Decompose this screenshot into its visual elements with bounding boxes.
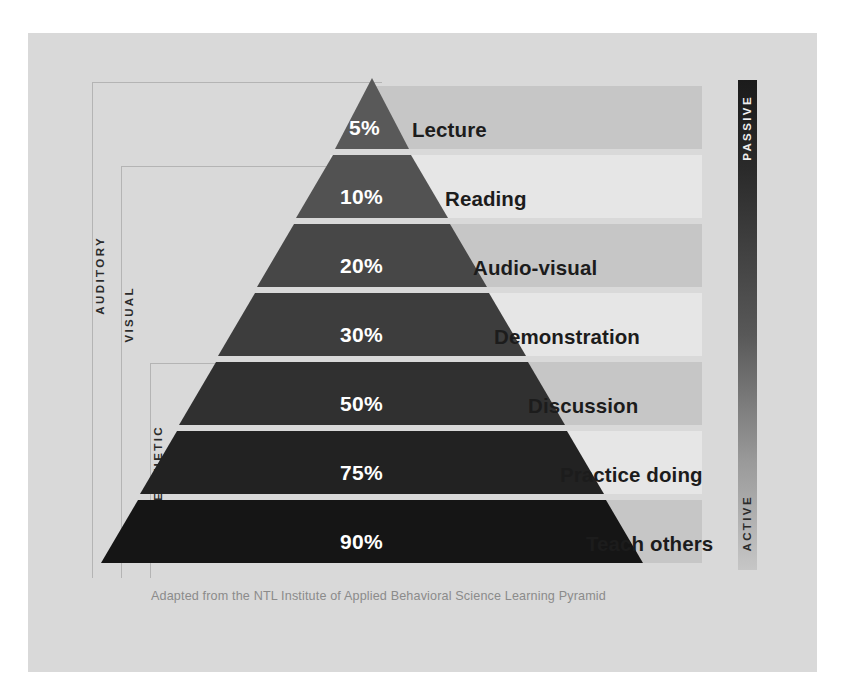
pct-discussion: 50% [340, 392, 383, 416]
tier-label-demonstration: Demonstration [494, 325, 640, 349]
pct-demonstration: 30% [340, 323, 383, 347]
tier-label-practicedoing: Practice doing [560, 463, 703, 487]
pct-teachothers: 90% [340, 530, 383, 554]
tier-label-audiovisual: Audio-visual [473, 256, 597, 280]
tier-label-discussion: Discussion [528, 394, 638, 418]
tier-label-teachothers: Teach others [586, 532, 713, 556]
engagement-label-active: ACTIVE [741, 495, 753, 552]
source-caption: Adapted from the NTL Institute of Applie… [151, 589, 606, 603]
engagement-label-passive: PASSIVE [741, 95, 753, 161]
pct-audiovisual: 20% [340, 254, 383, 278]
tier-label-reading: Reading [445, 187, 527, 211]
pct-reading: 10% [340, 185, 383, 209]
pct-practicedoing: 75% [340, 461, 383, 485]
pct-lecture: 5% [349, 116, 380, 140]
learning-pyramid-infographic: AUDITORY VISUAL KINESTHETIC 5% 10% 20% 3… [0, 0, 845, 695]
tier-label-lecture: Lecture [412, 118, 487, 142]
